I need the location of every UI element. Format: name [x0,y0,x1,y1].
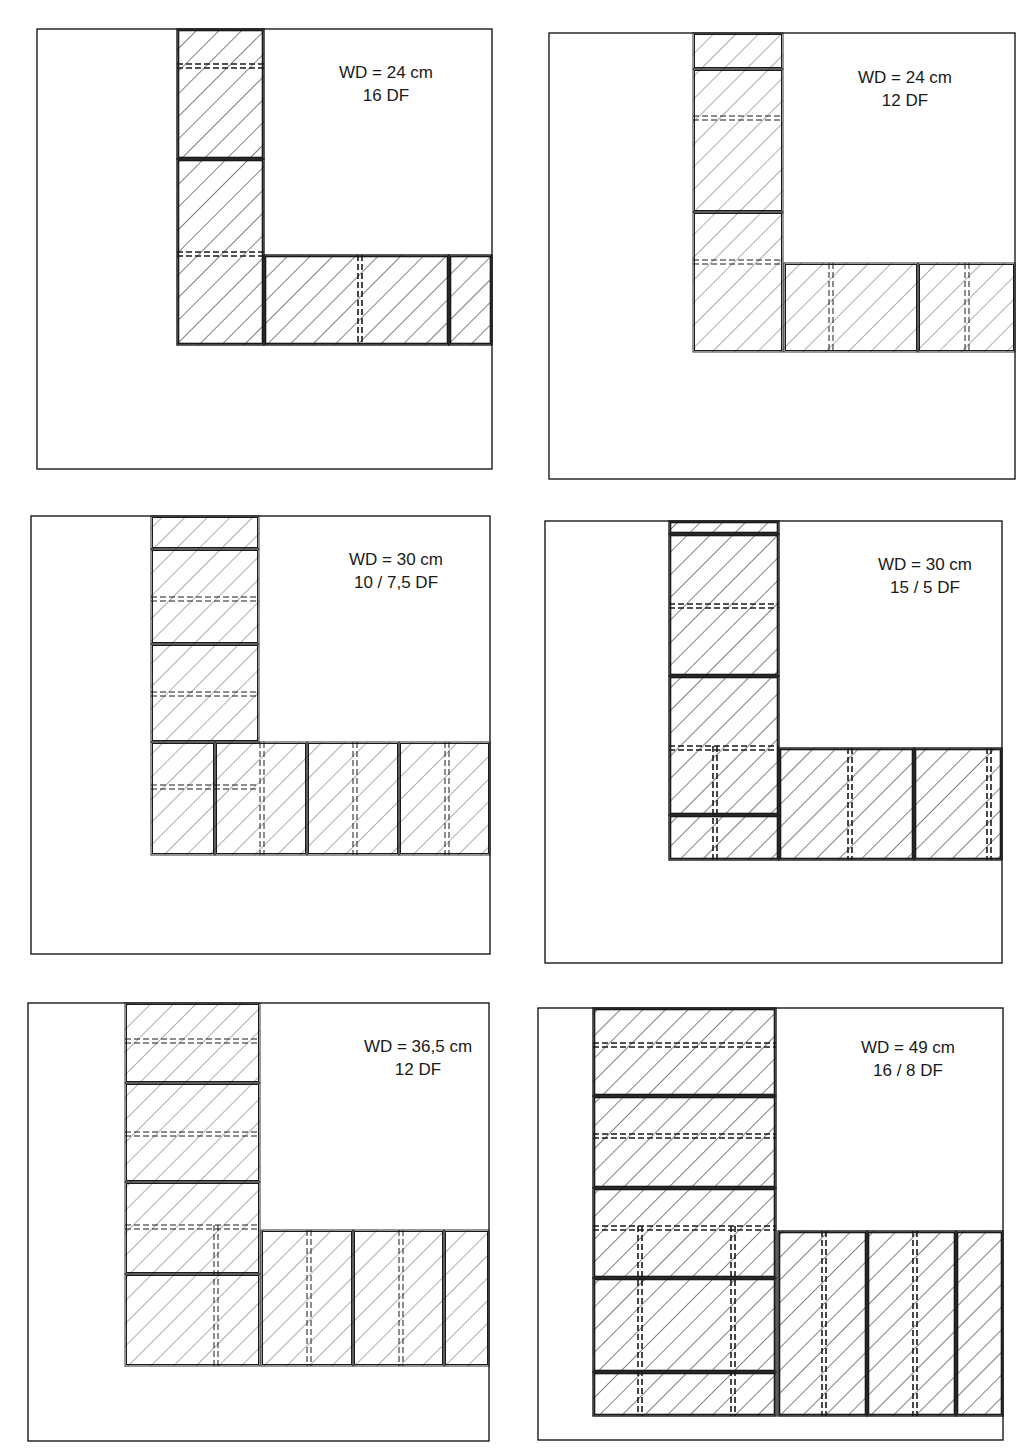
brick-hatch [669,534,779,676]
brick-hatch [151,644,259,742]
brick-hatch [215,742,307,855]
brick-format-label: 16 DF [363,86,409,105]
brick-hatch [125,1274,260,1366]
brick-format-label: 10 / 7,5 DF [354,573,438,592]
brick-hatch [593,1278,776,1372]
panel-wd30-15-5df: WD = 30 cm15 / 5 DF [545,521,1002,963]
panel-wd24-16df: WD = 24 cm16 DF [37,29,492,469]
brick [918,263,1015,352]
brick [693,69,783,212]
wall-thickness-label: WD = 30 cm [349,550,443,569]
brick-format-label: 15 / 5 DF [890,578,960,597]
brick [444,1230,489,1366]
brick-hatch [593,1372,776,1416]
brick [593,1278,776,1372]
brick [593,1372,776,1416]
brick-hatch [593,1188,776,1278]
brick-format-label: 16 / 8 DF [873,1061,943,1080]
brick-hatch [693,212,783,352]
wall-thickness-label: WD = 24 cm [339,63,433,82]
brick [125,1182,260,1274]
panel-wd36.5-12df: WD = 36,5 cm12 DF [28,1003,489,1441]
brick [125,1274,260,1366]
brick [867,1231,956,1416]
brick [669,521,779,534]
brick-format-label: 12 DF [882,91,928,110]
brick-hatch [784,263,918,352]
brick [784,263,918,352]
brick [914,748,1002,860]
wall-thickness-label: WD = 24 cm [858,68,952,87]
panel-wd30-10-7.5df: WD = 30 cm10 / 7,5 DF [31,516,490,954]
brick [779,748,914,860]
brick [593,1008,776,1096]
brick-hatch [125,1182,260,1274]
brick [693,212,783,352]
brick [151,516,259,549]
brick [593,1188,776,1278]
brick-hatch [593,1008,776,1096]
brick-corner-bond-figure: WD = 24 cm16 DFWD = 24 cm12 DFWD = 30 cm… [0,0,1027,1451]
brick-hatch [151,742,215,855]
brick-hatch [264,255,449,345]
brick-format-label: 12 DF [395,1060,441,1079]
brick [151,742,215,855]
brick [593,1096,776,1188]
panel-wd24-12df: WD = 24 cm12 DF [549,33,1015,479]
brick-hatch [151,516,259,549]
wall-thickness-label: WD = 36,5 cm [364,1037,472,1056]
brick-hatch [593,1096,776,1188]
brick-hatch [669,815,779,860]
brick-hatch [693,69,783,212]
wall-thickness-label: WD = 49 cm [861,1038,955,1057]
brick [669,815,779,860]
brick-hatch [177,29,264,159]
wall-thickness-label: WD = 30 cm [878,555,972,574]
brick-hatch [918,263,1015,352]
brick [956,1231,1003,1416]
brick [151,644,259,742]
brick [215,742,307,855]
brick-hatch [779,748,914,860]
panel-wd49-16-8df: WD = 49 cm16 / 8 DF [538,1008,1003,1440]
brick [669,534,779,676]
brick [177,29,264,159]
brick [264,255,449,345]
brick-hatch [867,1231,956,1416]
brick-hatch [444,1230,489,1366]
brick [693,33,783,69]
brick-hatch [956,1231,1003,1416]
brick-hatch [693,33,783,69]
brick [449,255,492,345]
brick-hatch [449,255,492,345]
brick-hatch [914,748,1002,860]
